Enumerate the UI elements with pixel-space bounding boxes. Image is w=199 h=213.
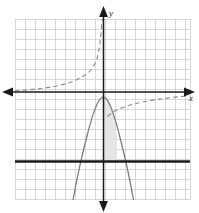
x-axis-label: x [188,93,193,103]
figure-background [0,0,199,213]
graph-canvas: y x [0,0,199,213]
graph-figure: y x [0,0,199,213]
y-axis-label: y [108,8,113,18]
